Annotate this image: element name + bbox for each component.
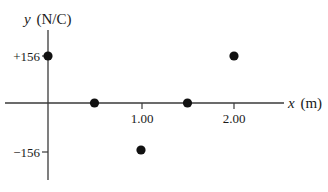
- data-point-3: [183, 98, 192, 107]
- y-axis-label: y (N/C): [22, 11, 71, 28]
- data-point-0: [43, 51, 52, 60]
- data-point-2: [136, 145, 145, 154]
- data-point-1: [90, 98, 99, 107]
- y-tick-label-negative: −156: [13, 145, 40, 160]
- data-point-4: [229, 51, 238, 60]
- x-tick-label-2: 2.00: [223, 111, 246, 126]
- y-tick-label-positive: +156: [13, 49, 40, 64]
- x-tick-label-1: 1.00: [131, 111, 154, 126]
- x-axis-label: x (m): [287, 95, 322, 112]
- electric-field-scatter-chart: y (N/C) x (m) +156 −156 1.00 2.00: [0, 0, 328, 192]
